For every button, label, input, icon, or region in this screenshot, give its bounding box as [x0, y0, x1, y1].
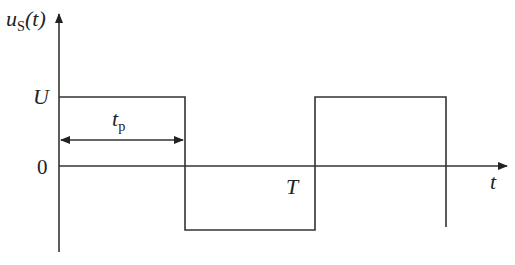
y-axis-label: uS(t): [6, 8, 46, 34]
period-label: T: [286, 176, 298, 198]
zero-label: 0: [37, 157, 48, 178]
waveform-plot: [0, 0, 515, 265]
high-level-label: U: [33, 86, 49, 108]
pulse-width-label: tp: [112, 108, 125, 134]
x-axis-label: t: [490, 171, 496, 193]
